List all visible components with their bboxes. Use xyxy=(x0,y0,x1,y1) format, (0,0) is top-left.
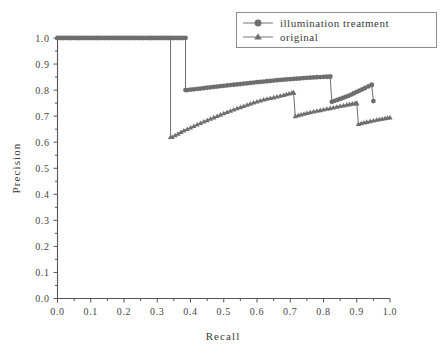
chart-background xyxy=(0,0,443,349)
y-tick-label: 0.8 xyxy=(35,85,49,96)
x-tick-label: 0.2 xyxy=(117,306,131,317)
precision-recall-chart: 0.00.10.20.30.40.50.60.70.80.91.0 0.00.1… xyxy=(0,0,443,349)
y-tick-label: 0.6 xyxy=(35,137,49,148)
chart-legend: illumination treatment original xyxy=(237,13,437,48)
data-point-circle xyxy=(183,36,188,41)
x-tick-label: 0.5 xyxy=(217,306,231,317)
y-tick-label: 0.3 xyxy=(35,215,49,226)
y-tick-label: 0.7 xyxy=(35,111,49,122)
y-axis-title: Precision xyxy=(10,143,22,194)
x-axis-title: Recall xyxy=(206,330,241,342)
y-tick-label: 0.4 xyxy=(35,189,49,200)
x-tick-label: 0.4 xyxy=(183,306,197,317)
x-tick-label: 0.6 xyxy=(250,306,264,317)
y-tick-label: 0.2 xyxy=(35,241,49,252)
x-tick-label: 0.8 xyxy=(316,306,330,317)
x-tick-label: 0.3 xyxy=(150,306,164,317)
legend-label-original: original xyxy=(280,31,318,43)
y-tick-label: 1.0 xyxy=(35,33,49,44)
circle-marker-icon xyxy=(255,20,262,27)
y-tick-label: 0.1 xyxy=(35,267,49,278)
x-tick-label: 0.1 xyxy=(84,306,98,317)
data-point-circle xyxy=(369,82,374,87)
y-tick-label: 0.9 xyxy=(35,59,49,70)
x-tick-label: 0.7 xyxy=(283,306,297,317)
legend-label-illumination: illumination treatment xyxy=(280,17,389,29)
x-tick-label: 0.9 xyxy=(350,306,364,317)
data-point-circle xyxy=(328,74,333,79)
y-tick-label: 0.0 xyxy=(35,293,49,304)
data-point-circle xyxy=(371,99,376,104)
x-tick-label: 1.0 xyxy=(383,306,397,317)
chart-canvas: 0.00.10.20.30.40.50.60.70.80.91.0 0.00.1… xyxy=(0,0,443,349)
y-tick-label: 0.5 xyxy=(35,163,49,174)
x-tick-label: 0.0 xyxy=(50,306,64,317)
